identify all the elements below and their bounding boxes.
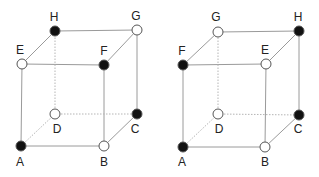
vertex-b-empty: [260, 142, 270, 152]
edge-AD: [183, 114, 218, 147]
vertex-label-g: G: [131, 9, 140, 23]
vertex-label-h: H: [294, 10, 303, 24]
vertex-label-a: A: [16, 155, 24, 169]
vertex-f-filled: [99, 60, 109, 70]
vertex-c-filled: [132, 109, 142, 119]
edge-AE: [21, 64, 22, 146]
cube-diagram: ABCDEFHG ABCDFEGH: [0, 0, 319, 177]
vertex-e-empty: [261, 59, 271, 69]
vertex-d-empty: [213, 109, 223, 119]
edge-GF: [183, 32, 218, 65]
vertex-h-filled: [50, 26, 60, 36]
edge-EF: [22, 64, 104, 65]
vertex-label-d: D: [215, 122, 224, 136]
vertex-g-empty: [213, 27, 223, 37]
edge-GH: [55, 30, 137, 31]
left-cube: ABCDEFHG: [16, 9, 142, 169]
edge-AD: [21, 114, 55, 146]
edge-HE: [22, 31, 55, 64]
vertex-label-b: B: [261, 155, 269, 169]
vertex-a-filled: [16, 141, 26, 151]
right-cube: ABCDFEGH: [178, 10, 304, 169]
vertex-a-filled: [178, 142, 188, 152]
edge-FG: [104, 30, 137, 65]
vertex-label-f: F: [178, 44, 185, 58]
vertex-b-empty: [99, 141, 109, 151]
vertex-label-c: C: [294, 122, 303, 136]
edge-DC: [218, 114, 299, 115]
vertex-label-a: A: [178, 155, 186, 169]
vertex-e-empty: [17, 59, 27, 69]
vertex-label-c: C: [131, 122, 140, 136]
vertex-label-f: F: [100, 44, 107, 58]
cube-diagram-svg: ABCDEFHG ABCDFEGH: [0, 0, 319, 177]
edge-EH: [266, 31, 299, 64]
vertex-label-g: G: [211, 10, 220, 24]
vertex-label-b: B: [100, 155, 108, 169]
vertex-label-e: E: [16, 43, 24, 57]
vertex-h-filled: [294, 26, 304, 36]
vertex-label-d: D: [53, 122, 62, 136]
vertex-label-e: E: [261, 43, 269, 57]
vertex-c-filled: [294, 110, 304, 120]
vertex-f-filled: [178, 60, 188, 70]
vertex-label-h: H: [50, 10, 59, 24]
edge-HG: [218, 31, 299, 32]
vertex-d-empty: [50, 109, 60, 119]
edge-FE: [183, 64, 266, 65]
vertex-g-empty: [132, 25, 142, 35]
edge-BE: [265, 64, 266, 147]
